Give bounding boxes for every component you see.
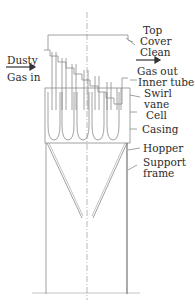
label-casing: Casing xyxy=(142,124,179,135)
top-cover xyxy=(48,35,133,50)
label-clean: Clean xyxy=(140,47,171,58)
label-dusty: Dusty xyxy=(7,55,38,66)
label-hopper: Hopper xyxy=(143,143,183,154)
outlet-plenum xyxy=(44,50,128,104)
cyclone-cells xyxy=(48,92,119,140)
label-gas-in: Gas in xyxy=(7,72,41,83)
hopper xyxy=(47,143,82,218)
label-frame: frame xyxy=(143,168,174,179)
label-cell: Cell xyxy=(146,110,167,121)
